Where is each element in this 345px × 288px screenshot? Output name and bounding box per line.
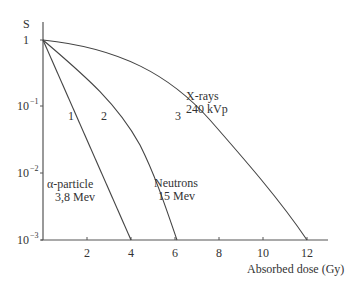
label-alpha-line1: α-particle bbox=[47, 177, 93, 191]
label-neutrons-line1: Neutrons bbox=[154, 176, 198, 190]
x-tick: 12 bbox=[301, 246, 313, 260]
y-tick-base: 10 bbox=[17, 99, 29, 113]
label-xrays-line2: 240 kVp bbox=[186, 102, 228, 116]
x-tick: 4 bbox=[128, 246, 134, 260]
y-tick-exp: −3 bbox=[30, 231, 39, 240]
label-neutrons-line2: 15 Mev bbox=[158, 189, 195, 203]
y-tick-exp: −1 bbox=[30, 97, 39, 106]
curve-alpha-particle bbox=[43, 40, 131, 240]
x-tick: 8 bbox=[216, 246, 222, 260]
x-axis-label: Absorbed dose (Gy) bbox=[247, 262, 344, 276]
x-tick: 2 bbox=[84, 246, 90, 260]
label-xrays-line1: X-rays bbox=[186, 89, 219, 103]
y-tick-1: 1 bbox=[23, 33, 29, 47]
x-tick: 6 bbox=[172, 246, 178, 260]
y-axis-label: S bbox=[23, 17, 30, 31]
curve-number-2: 2 bbox=[101, 109, 107, 123]
survival-curve-chart: S 1 10 −1 10 −2 10 −3 2 4 6 8 10 12 Abso… bbox=[0, 0, 345, 288]
y-tick-base: 10 bbox=[17, 166, 29, 180]
curve-number-1: 1 bbox=[68, 109, 74, 123]
y-tick-base: 10 bbox=[17, 233, 29, 247]
y-tick-exp: −2 bbox=[30, 164, 39, 173]
curve-neutrons bbox=[43, 40, 177, 240]
curve-x-rays bbox=[43, 40, 307, 240]
x-tick: 10 bbox=[257, 246, 269, 260]
curve-number-3: 3 bbox=[175, 109, 181, 123]
label-alpha-line2: 3,8 Mev bbox=[55, 190, 95, 204]
